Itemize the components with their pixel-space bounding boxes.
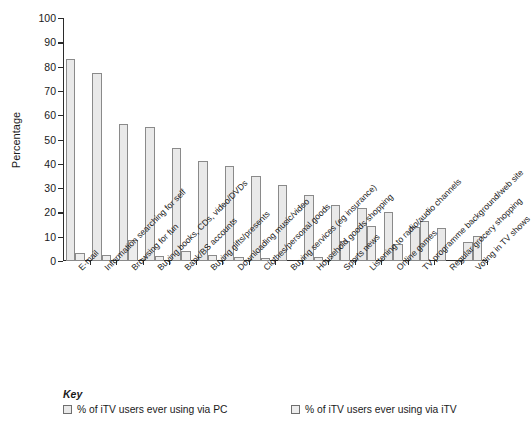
y-tick-label: 90 (44, 37, 56, 48)
y-tick-label: 70 (44, 86, 56, 97)
y-tick-mark (58, 18, 63, 19)
y-tick-label: 10 (44, 231, 56, 242)
legend-label: % of iTV users ever using via PC (77, 404, 228, 415)
legend-entry: % of iTV users ever using via iTV (291, 404, 457, 415)
y-tick-mark (58, 115, 63, 116)
bar (66, 59, 76, 261)
y-tick-mark (58, 42, 63, 43)
y-tick-mark (58, 140, 63, 141)
y-tick-label: 0 (50, 256, 56, 267)
legend-swatch-icon (63, 405, 72, 414)
y-tick-mark (58, 91, 63, 92)
y-tick-label: 100 (38, 13, 56, 24)
y-tick-label: 20 (44, 207, 56, 218)
y-tick-mark (58, 237, 63, 238)
legend: Key % of iTV users ever using via PC% of… (63, 388, 483, 415)
bar (92, 73, 102, 261)
legend-entry: % of iTV users ever using via PC (63, 404, 291, 415)
y-tick-mark (58, 67, 63, 68)
y-axis-title-label: Percentage (10, 111, 22, 167)
y-tick-mark (58, 212, 63, 213)
y-axis-line (63, 18, 64, 261)
y-tick-mark (58, 261, 63, 262)
y-tick-label: 60 (44, 110, 56, 121)
y-tick-label: 30 (44, 183, 56, 194)
legend-label: % of iTV users ever using via iTV (305, 404, 457, 415)
y-tick-label: 40 (44, 159, 56, 170)
legend-title: Key (63, 388, 483, 400)
legend-swatch-icon (291, 405, 300, 414)
y-tick-label: 50 (44, 134, 56, 145)
y-axis-title: Percentage (8, 18, 24, 261)
y-tick-mark (58, 188, 63, 189)
legend-entries: % of iTV users ever using via PC% of iTV… (63, 404, 483, 415)
y-tick-label: 80 (44, 61, 56, 72)
y-tick-mark (58, 164, 63, 165)
